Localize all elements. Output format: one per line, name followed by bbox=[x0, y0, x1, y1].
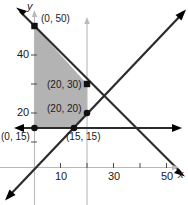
x-axis-label: x bbox=[178, 169, 184, 180]
vertex-marker-20-20 bbox=[84, 110, 91, 117]
graph-figure: y x 10 30 50 40 20 (0, 50) (20, 30) (20,… bbox=[0, 0, 188, 205]
xtick-label-10: 10 bbox=[55, 171, 67, 182]
ytick-label-20: 20 bbox=[17, 107, 29, 118]
line-y-equals-x bbox=[5, 10, 186, 201]
xtick-label-50: 50 bbox=[161, 171, 173, 182]
coordinate-plane bbox=[0, 0, 188, 205]
point-label-15-15: (15, 15) bbox=[66, 132, 100, 142]
xtick-label-30: 30 bbox=[108, 171, 120, 182]
point-label-0-50: (0, 50) bbox=[41, 14, 70, 24]
point-label-20-20: (20, 20) bbox=[47, 104, 81, 114]
y-axis-label: y bbox=[27, 1, 33, 12]
vertex-marker-20-30 bbox=[84, 81, 90, 87]
point-label-20-30: (20, 30) bbox=[47, 80, 81, 90]
line-y15-arrowhead-right bbox=[172, 124, 182, 132]
vertex-marker-0-15 bbox=[31, 125, 38, 132]
vertex-marker-0-50 bbox=[31, 23, 37, 29]
ytick-label-40: 40 bbox=[17, 49, 29, 60]
constraint-x20-arrowhead bbox=[84, 17, 89, 24]
point-label-0-15: (0, 15) bbox=[1, 132, 30, 142]
